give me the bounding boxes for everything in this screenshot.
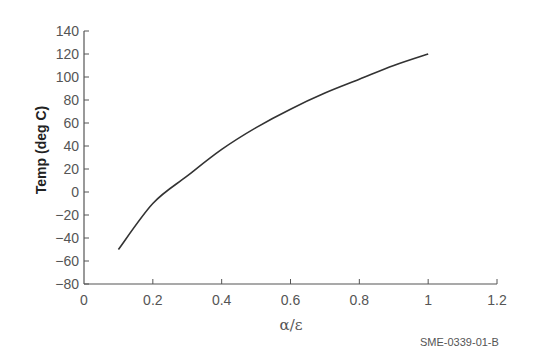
x-axis: 00.20.40.60.811.2 [80, 279, 507, 308]
y-tick-label: 20 [63, 161, 79, 177]
x-tick-label: 0 [80, 292, 88, 308]
x-tick-label: 0.8 [350, 292, 370, 308]
x-tick-label: 0.4 [212, 292, 232, 308]
y-tick-label: 60 [63, 115, 79, 131]
x-tick-label: 1.2 [487, 292, 507, 308]
x-axis-label: α/ε [280, 316, 303, 334]
x-tick-label: 0.6 [281, 292, 301, 308]
figure-code: SME-0339-01-B [420, 336, 499, 348]
data-line [118, 54, 428, 250]
y-tick-label: 0 [71, 184, 79, 200]
y-tick-label: 100 [56, 69, 80, 85]
x-tick-label: 0.2 [143, 292, 163, 308]
y-tick-label: 140 [56, 23, 80, 39]
y-tick-label: 80 [63, 92, 79, 108]
chart: −80−60−40−20020406080100120140 00.20.40.… [0, 0, 533, 355]
y-axis-label: Temp (deg C) [33, 106, 49, 194]
y-tick-label: −80 [55, 276, 79, 292]
y-tick-label: −40 [55, 230, 79, 246]
y-tick-label: −20 [55, 207, 79, 223]
y-axis: −80−60−40−20020406080100120140 [55, 23, 89, 292]
y-tick-label: 120 [56, 46, 80, 62]
y-tick-label: −60 [55, 253, 79, 269]
y-tick-label: 40 [63, 138, 79, 154]
x-tick-label: 1 [424, 292, 432, 308]
